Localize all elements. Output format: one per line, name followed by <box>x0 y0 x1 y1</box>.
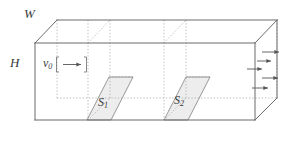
inlet-bracket-right <box>84 57 87 72</box>
inlet-velocity-subscript: 0 <box>48 62 52 71</box>
inlet-bracket-left <box>57 57 60 72</box>
outlet-arrows-group <box>247 52 279 88</box>
width-label: W <box>24 7 35 20</box>
inlet-velocity-arrow-group <box>57 57 87 72</box>
section-1-plane-shape <box>87 77 133 120</box>
box-outline <box>35 20 277 120</box>
section-2-label: S2 <box>174 94 184 106</box>
top-right-receding-edge <box>255 20 277 43</box>
height-label: H <box>10 56 19 69</box>
inlet-velocity-label: v0 <box>43 57 52 69</box>
section-1-subscript: 1 <box>104 101 108 110</box>
top-left-receding-edge <box>35 20 57 43</box>
section-2-slant-top <box>164 20 186 43</box>
height-label-text: H <box>10 55 19 70</box>
section-1-label: S1 <box>98 96 108 108</box>
hidden-edges <box>57 20 277 120</box>
right-face-receding-edge <box>255 98 277 120</box>
section-2-subscript: 2 <box>180 99 184 108</box>
section-2-plane-shape <box>164 77 210 120</box>
width-label-text: W <box>24 6 35 21</box>
figure-canvas: W H v0 S1 S2 <box>0 0 286 146</box>
section-1-slant-top <box>88 20 110 43</box>
duct-diagram-svg <box>0 0 286 146</box>
